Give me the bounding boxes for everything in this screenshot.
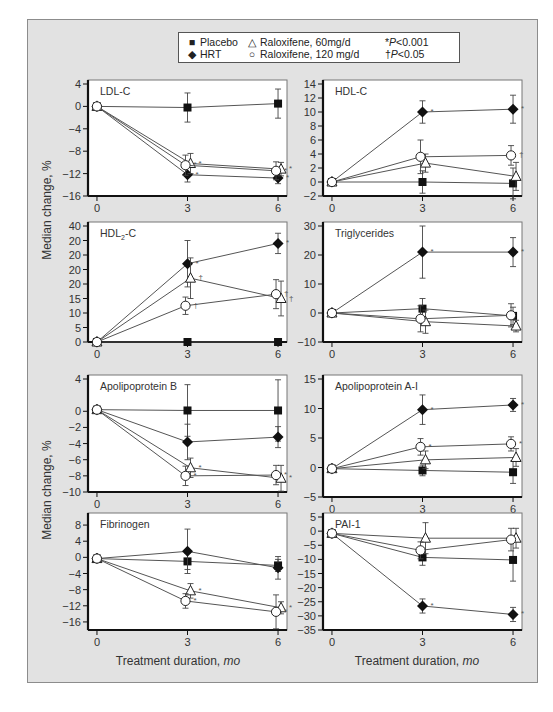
circle-marker-icon [327, 464, 336, 473]
panel-title: Fibrinogen [100, 518, 150, 530]
y-tick-label: −35 [297, 624, 316, 636]
y-tick-label: −5 [303, 539, 316, 551]
panel-title: HDL2-C [100, 227, 136, 241]
y-tick-label: −12 [62, 168, 81, 180]
panel-apolipoprotein-b: 40−2−4−6−8−10036Apolipoprotein B**** [62, 373, 292, 510]
x-tick-label: 6 [275, 636, 281, 648]
significance-asterisk: * [521, 400, 524, 409]
x-axis-label-left: Treatment duration, mo [116, 654, 241, 668]
circle-marker-icon [92, 102, 101, 111]
panels: 40−4−8−12−16036LDL-C******14121086420−20… [62, 78, 524, 648]
significance-asterisk: * [194, 471, 197, 480]
y-tick-label: 10 [69, 307, 81, 319]
significance-asterisk: * [196, 170, 199, 179]
y-tick-label: −10 [297, 336, 316, 348]
significance-asterisk: * [286, 238, 289, 247]
y-tick-label: 20 [69, 235, 81, 247]
y-axis-label-bottom: Median change, % [40, 440, 54, 540]
significance-asterisk: * [429, 442, 432, 451]
circle-marker-icon [271, 607, 280, 616]
y-tick-label: −30 [297, 610, 316, 622]
circle-marker-icon [181, 596, 190, 605]
plots-canvas: Median change, % Median change, % Treatm… [0, 0, 553, 712]
circle-marker-icon [327, 529, 336, 538]
panel-hdl2-c: 4020202020151050036HDL2-C**†††† [69, 220, 294, 360]
y-tick-label: −20 [297, 582, 316, 594]
circle-marker-icon [271, 470, 280, 479]
panel-pai-1: 50−5−10−15−20−25−30−35036PAI-1** [297, 511, 524, 648]
square-marker-icon [419, 178, 427, 186]
y-tick-label: −4 [68, 123, 81, 135]
panel-title: Apolipoprotein B [100, 380, 177, 392]
y-tick-label: −5 [303, 491, 316, 503]
y-tick-label: 20 [69, 264, 81, 276]
x-tick-label: 3 [184, 202, 190, 214]
circle-marker-icon [416, 152, 425, 161]
y-tick-label: −8 [68, 145, 81, 157]
x-tick-label: 0 [94, 498, 100, 510]
x-tick-label: 0 [329, 348, 335, 360]
significance-asterisk: * [431, 247, 434, 256]
y-tick-label: 40 [69, 220, 81, 232]
x-tick-label: 6 [510, 636, 516, 648]
y-tick-label: −4 [68, 568, 81, 580]
square-marker-icon [509, 468, 517, 476]
significance-dagger: † [284, 289, 288, 298]
circle-marker-icon [506, 151, 515, 160]
x-tick-label: 3 [419, 636, 425, 648]
circle-marker-icon [181, 471, 190, 480]
y-tick-label: −8 [68, 470, 81, 482]
y-tick-label: 0 [75, 336, 81, 348]
panel-apolipoprotein-a-i: 151050−5036Apolipoprotein A-I**** [303, 373, 524, 515]
y-tick-label: 5 [310, 432, 316, 444]
y-tick-label: 12 [304, 92, 316, 104]
y-tick-label: −2 [303, 190, 316, 202]
significance-asterisk: * [431, 107, 434, 116]
significance-dagger: † [519, 150, 523, 159]
circle-marker-icon [327, 177, 336, 186]
square-marker-icon [184, 338, 192, 346]
circle-marker-icon [416, 442, 425, 451]
x-tick-label: 3 [184, 498, 190, 510]
y-tick-label: −2 [68, 421, 81, 433]
panel-title: Apolipoprotein A-I [335, 380, 418, 392]
x-tick-label: 6 [510, 202, 516, 214]
significance-asterisk: * [521, 104, 524, 113]
panel-title: HDL-C [335, 85, 368, 97]
square-marker-icon [274, 338, 282, 346]
x-tick-label: 3 [184, 636, 190, 648]
circle-marker-icon [327, 308, 336, 317]
y-tick-label: 4 [75, 373, 81, 385]
y-tick-label: 0 [310, 176, 316, 188]
y-tick-label: 20 [69, 278, 81, 290]
y-tick-label: −10 [62, 486, 81, 498]
y-tick-label: 5 [310, 511, 316, 523]
significance-dagger: † [199, 273, 203, 282]
square-marker-icon [184, 104, 192, 112]
y-tick-label: 0 [75, 100, 81, 112]
significance-dagger: † [289, 294, 293, 303]
circle-marker-icon [271, 166, 280, 175]
x-tick-label: 0 [329, 636, 335, 648]
x-tick-label: 0 [94, 348, 100, 360]
y-tick-label: 4 [75, 535, 81, 547]
y-tick-label: 0 [310, 462, 316, 474]
significance-asterisk: * [199, 463, 202, 472]
significance-asterisk: * [289, 164, 292, 173]
y-tick-label: 15 [69, 293, 81, 305]
circle-marker-icon [271, 290, 280, 299]
y-tick-label: −4 [68, 438, 81, 450]
significance-asterisk: * [521, 247, 524, 256]
significance-dagger: † [194, 301, 198, 310]
circle-marker-icon [416, 314, 425, 323]
y-tick-label: 20 [304, 249, 316, 261]
y-tick-label: 4 [75, 78, 81, 90]
y-axis-label-top: Median change, % [40, 160, 54, 260]
y-tick-label: 2 [310, 162, 316, 174]
y-tick-label: 0 [75, 405, 81, 417]
panel-hdl-c: 14121086420−2036HDL-C**† [303, 78, 524, 214]
x-tick-label: 6 [510, 348, 516, 360]
square-marker-icon [184, 406, 192, 414]
square-marker-icon [274, 100, 282, 108]
y-tick-label: 4 [310, 148, 316, 160]
